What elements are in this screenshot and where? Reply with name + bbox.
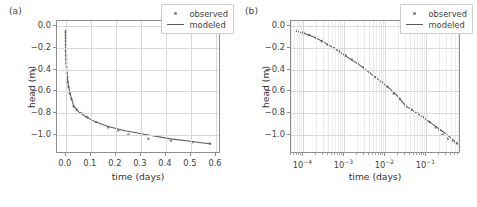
x-tick-minor bbox=[339, 153, 340, 155]
y-tick-mark bbox=[53, 112, 56, 113]
observed-marker-icon bbox=[405, 12, 425, 15]
y-tick-mark bbox=[287, 90, 290, 91]
grid-line-minor bbox=[323, 21, 324, 152]
x-tick-minor bbox=[368, 153, 369, 155]
x-tick-minor bbox=[341, 153, 342, 155]
x-tick-label: 10−3 bbox=[334, 158, 353, 170]
legend-label-observed: observed bbox=[425, 9, 467, 19]
grid-line-vertical bbox=[385, 21, 386, 152]
grid-line-minor bbox=[357, 21, 358, 152]
grid-line-horizontal bbox=[291, 113, 459, 114]
x-tick-label: 0.4 bbox=[158, 158, 171, 168]
x-tick-minor bbox=[293, 153, 294, 155]
grid-line-minor bbox=[338, 21, 339, 152]
x-tick-mark bbox=[90, 153, 91, 156]
grid-line-minor bbox=[451, 21, 452, 152]
grid-line-horizontal bbox=[57, 91, 219, 92]
y-tick-mark bbox=[53, 134, 56, 135]
grid-line-minor bbox=[373, 21, 374, 152]
x-tick-mark bbox=[190, 153, 191, 156]
y-tick-label: −1.0 bbox=[16, 129, 51, 139]
x-tick-mark bbox=[140, 153, 141, 156]
grid-line-vertical bbox=[91, 21, 92, 152]
x-tick-minor bbox=[296, 153, 297, 155]
x-tick-mark bbox=[425, 153, 426, 156]
grid-line-minor bbox=[316, 21, 317, 152]
grid-line-minor bbox=[376, 21, 377, 152]
grid-line-minor bbox=[410, 21, 411, 152]
grid-line-minor bbox=[294, 21, 295, 152]
x-tick-mark bbox=[343, 153, 344, 156]
x-tick-minor bbox=[413, 153, 414, 155]
panel-a-data-layer bbox=[57, 21, 219, 152]
grid-line-vertical bbox=[166, 21, 167, 152]
grid-line-horizontal bbox=[291, 91, 459, 92]
grid-line-vertical bbox=[344, 21, 345, 152]
x-tick-minor bbox=[334, 153, 335, 155]
x-tick-minor bbox=[397, 153, 398, 155]
x-tick-label: 0.1 bbox=[83, 158, 96, 168]
grid-line-minor bbox=[383, 21, 384, 152]
grid-line-minor bbox=[422, 21, 423, 152]
grid-line-vertical bbox=[141, 21, 142, 152]
grid-line-minor bbox=[455, 21, 456, 152]
y-tick-mark bbox=[53, 25, 56, 26]
x-tick-minor bbox=[300, 153, 301, 155]
panel-b-legend: observed modeled bbox=[400, 4, 473, 34]
y-tick-mark bbox=[287, 134, 290, 135]
y-tick-label: 0.0 bbox=[250, 20, 285, 30]
grid-line-minor bbox=[299, 21, 300, 152]
grid-line-minor bbox=[446, 21, 447, 152]
panel-b-y-axis-title: head (m) bbox=[260, 66, 271, 108]
x-tick-mark bbox=[215, 153, 216, 156]
x-tick-minor bbox=[356, 153, 357, 155]
x-tick-mark bbox=[302, 153, 303, 156]
x-tick-minor bbox=[438, 153, 439, 155]
legend-entry-modeled: modeled bbox=[405, 19, 467, 30]
grid-line-minor bbox=[417, 21, 418, 152]
y-tick-mark bbox=[53, 90, 56, 91]
grid-line-vertical bbox=[66, 21, 67, 152]
x-tick-label: 0.6 bbox=[208, 158, 221, 168]
legend-entry-observed: observed bbox=[166, 8, 228, 19]
x-tick-minor bbox=[290, 153, 291, 155]
grid-line-horizontal bbox=[57, 70, 219, 71]
grid-line-minor bbox=[328, 21, 329, 152]
grid-line-vertical bbox=[116, 21, 117, 152]
y-tick-mark bbox=[53, 69, 56, 70]
x-tick-minor bbox=[331, 153, 332, 155]
grid-line-minor bbox=[424, 21, 425, 152]
y-tick-label: −0.2 bbox=[16, 42, 51, 52]
y-tick-label: 0.0 bbox=[16, 20, 51, 30]
x-tick-minor bbox=[327, 153, 328, 155]
y-tick-label: −0.8 bbox=[16, 107, 51, 117]
panel-a-legend: observed modeled bbox=[161, 4, 234, 34]
grid-line-horizontal bbox=[57, 48, 219, 49]
x-tick-minor bbox=[375, 153, 376, 155]
x-tick-mark bbox=[65, 153, 66, 156]
grid-line-minor bbox=[297, 21, 298, 152]
y-tick-label: −0.8 bbox=[250, 107, 285, 117]
x-tick-minor bbox=[372, 153, 373, 155]
grid-line-minor bbox=[342, 21, 343, 152]
legend-label-modeled: modeled bbox=[186, 20, 226, 30]
legend-entry-modeled: modeled bbox=[166, 19, 228, 30]
x-tick-label: 10−4 bbox=[293, 158, 312, 170]
x-tick-minor bbox=[416, 153, 417, 155]
y-tick-mark bbox=[287, 69, 290, 70]
x-tick-minor bbox=[315, 153, 316, 155]
x-tick-mark bbox=[115, 153, 116, 156]
grid-line-vertical bbox=[303, 21, 304, 152]
x-tick-mark bbox=[384, 153, 385, 156]
x-tick-minor bbox=[457, 153, 458, 155]
x-tick-label: 0.3 bbox=[133, 158, 146, 168]
grid-line-minor bbox=[332, 21, 333, 152]
grid-line-horizontal bbox=[291, 135, 459, 136]
x-tick-label: 0.2 bbox=[108, 158, 121, 168]
x-tick-minor bbox=[337, 153, 338, 155]
x-tick-label: 10−1 bbox=[416, 158, 435, 170]
panel-a-label: (a) bbox=[9, 6, 22, 16]
x-tick-label: 10−2 bbox=[375, 158, 394, 170]
panel-b-x-axis-title: time (days) bbox=[349, 171, 402, 182]
panel-b-plot-area bbox=[290, 20, 460, 153]
